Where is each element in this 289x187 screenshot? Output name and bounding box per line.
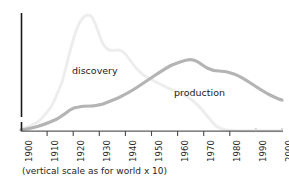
series-line-discovery — [21, 15, 282, 131]
series-line-production — [21, 60, 282, 130]
series-annotation-discovery: discovery — [72, 66, 118, 76]
series-annotation-production: production — [174, 88, 225, 98]
chart-figure: 1900 1910 1920 1930 1940 1950 1960 1970 … — [0, 0, 289, 187]
chart-plot-area — [0, 0, 289, 187]
figure-caption: (vertical scale as for world x 10) — [22, 167, 167, 176]
